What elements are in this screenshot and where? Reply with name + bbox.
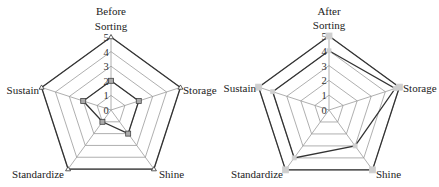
- before-axis-label-shine: Shine: [159, 168, 184, 180]
- axis-spoke: [259, 87, 329, 110]
- after-axis-label-storage: Storage: [403, 82, 437, 94]
- data-marker: [292, 156, 296, 160]
- data-marker: [109, 78, 114, 83]
- before-chart-title: Before: [96, 5, 126, 17]
- axis-spoke: [42, 87, 111, 110]
- radial-tick-label: 2: [321, 75, 326, 86]
- radial-tick-label: 1: [321, 90, 326, 101]
- radial-tick-label: 0: [103, 105, 108, 116]
- series-line-after: [273, 51, 395, 158]
- data-marker: [326, 33, 332, 39]
- data-marker: [256, 84, 262, 90]
- after-axis-label-sustain: Sustain: [224, 82, 257, 94]
- after-axis-label-sorting: Sorting: [313, 19, 346, 31]
- radar-charts: 012345 012345 Before Sorting Storage Shi…: [0, 0, 439, 187]
- axis-spoke: [111, 87, 180, 110]
- axis-spoke: [329, 110, 372, 170]
- before-axis-label-storage: Storage: [183, 84, 217, 96]
- data-marker: [327, 49, 331, 53]
- data-marker: [369, 167, 375, 173]
- before-axis-label-sorting: Sorting: [95, 20, 128, 32]
- axis-spoke: [68, 110, 111, 169]
- data-marker: [126, 131, 131, 136]
- before-radar-chart: 012345: [39, 32, 183, 171]
- radial-tick-label: 0: [321, 105, 326, 116]
- data-marker: [283, 167, 289, 173]
- before-axis-label-sustain: Sustain: [7, 84, 40, 96]
- data-marker: [81, 98, 86, 103]
- before-axis-label-standardize: Standardize: [12, 168, 64, 180]
- after-chart-title: After: [317, 5, 341, 17]
- data-marker: [109, 35, 114, 39]
- data-marker: [100, 119, 105, 124]
- after-radar-chart: 012345: [256, 31, 403, 173]
- radial-tick-label: 1: [103, 90, 108, 101]
- data-marker: [393, 87, 397, 91]
- axis-spoke: [286, 110, 329, 170]
- radial-tick-label: 3: [103, 61, 108, 72]
- after-axis-label-shine: Shine: [376, 168, 401, 180]
- data-marker: [136, 98, 141, 103]
- radial-tick-label: 3: [321, 61, 326, 72]
- data-marker: [271, 90, 275, 94]
- after-axis-label-standardize: Standardize: [231, 168, 283, 180]
- data-marker: [353, 144, 357, 148]
- radial-tick-label: 4: [103, 47, 109, 58]
